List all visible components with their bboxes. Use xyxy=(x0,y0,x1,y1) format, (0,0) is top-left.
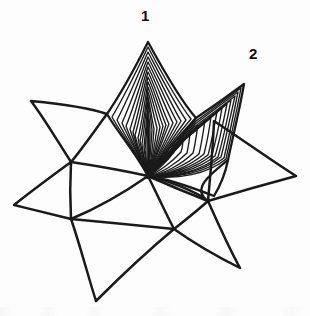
peak-label-1: 1 xyxy=(141,8,149,23)
peak-label-2: 2 xyxy=(249,46,257,61)
figure-container: 1 2 xyxy=(0,0,310,316)
center-convergence-point xyxy=(145,173,151,179)
scan-artifact-strip xyxy=(0,307,310,316)
star-diagram-canvas xyxy=(0,0,310,316)
